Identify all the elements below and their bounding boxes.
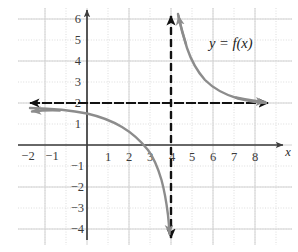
- y-tick-label: 1: [75, 117, 81, 131]
- x-tick-label: 2: [126, 150, 132, 164]
- x-tick-label: 1: [105, 150, 111, 164]
- x-tick-label: −2: [21, 149, 34, 163]
- x-tick-label: 5: [189, 150, 195, 164]
- y-tick-label: 4: [75, 54, 82, 68]
- x-tick-label: −1: [45, 149, 58, 163]
- x-tick-label: 8: [252, 150, 258, 164]
- y-tick-label: −3: [71, 201, 84, 215]
- y-tick-label: −2: [71, 180, 84, 194]
- graph-figure: 1): [0, 0, 298, 252]
- x-tick-label: 6: [210, 150, 216, 164]
- y-tick-label: 6: [75, 12, 81, 26]
- coordinate-plane: −2 −1 1 2 3 4 5 6 7 8 6 5 4 3 2 1 −1 −2 …: [0, 0, 298, 252]
- y-tick-label: 3: [75, 75, 81, 89]
- x-axis-label: x: [284, 145, 291, 159]
- function-curve-left-arrow: [32, 110, 60, 111]
- y-tick-label: −1: [71, 159, 84, 173]
- y-tick-label: 5: [75, 33, 81, 47]
- x-tick-label: 7: [231, 150, 237, 164]
- function-label: y = f(x): [207, 35, 253, 52]
- y-tick-label: −4: [71, 222, 85, 236]
